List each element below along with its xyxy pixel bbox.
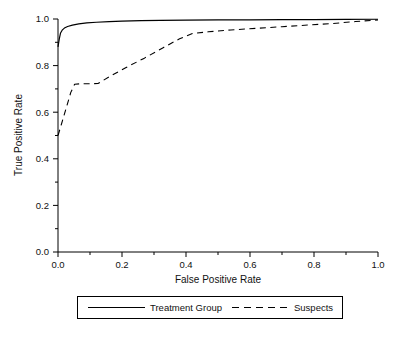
series-line-suspects (58, 20, 378, 136)
y-tick-label: 0.0 (36, 246, 49, 257)
roc-chart-figure: 0.00.20.40.60.81.0 0.00.20.40.60.81.0 Fa… (0, 0, 402, 340)
x-axis-title: False Positive Rate (175, 274, 262, 285)
x-tick-label: 0.2 (115, 259, 128, 270)
x-tick-label: 0.0 (51, 259, 64, 270)
y-tick-label: 0.6 (36, 107, 49, 118)
y-axis-title: True Positive Rate (13, 94, 24, 176)
legend: Treatment Group Suspects (78, 297, 343, 319)
x-tick-label: 0.4 (179, 259, 192, 270)
y-axis-tick-labels: 0.00.20.40.60.81.0 (36, 13, 49, 257)
series-line-treatment-group (58, 19, 378, 47)
data-series-group (58, 19, 378, 135)
y-tick-label: 0.8 (36, 60, 49, 71)
axes-group (58, 19, 378, 252)
y-tick-label: 0.2 (36, 200, 49, 211)
y-tick-label: 1.0 (36, 13, 49, 24)
legend-label-suspects: Suspects (294, 302, 333, 313)
x-axis-tick-labels: 0.00.20.40.60.81.0 (51, 259, 384, 270)
x-tick-label: 1.0 (371, 259, 384, 270)
y-tick-label: 0.4 (36, 153, 49, 164)
y-axis-ticks (53, 19, 58, 252)
x-axis-ticks (58, 252, 378, 257)
x-tick-label: 0.6 (243, 259, 256, 270)
legend-label-treatment-group: Treatment Group (150, 302, 222, 313)
x-tick-label: 0.8 (307, 259, 320, 270)
chart-canvas: 0.00.20.40.60.81.0 0.00.20.40.60.81.0 Fa… (0, 0, 402, 340)
